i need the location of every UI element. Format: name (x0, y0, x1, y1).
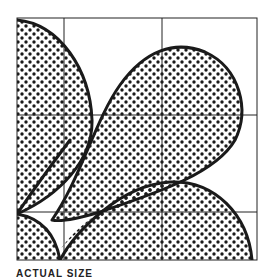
caption: ACTUAL SIZE (16, 268, 93, 278)
dotted-lobe-diagram (0, 0, 272, 278)
